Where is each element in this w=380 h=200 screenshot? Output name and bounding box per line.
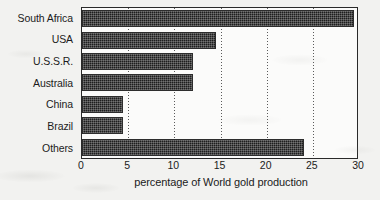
category-label-south-africa: South Africa <box>0 7 77 29</box>
x-tick-label-5: 5 <box>124 160 130 171</box>
bar-row <box>82 137 357 158</box>
category-label-others: Others <box>0 137 77 159</box>
x-axis-title-text: percentage of World gold production <box>134 176 308 188</box>
x-tick-label-20: 20 <box>260 160 272 171</box>
x-tick-label-30: 30 <box>352 160 364 171</box>
x-tick-label-10: 10 <box>167 160 179 171</box>
x-tick-label-25: 25 <box>306 160 318 171</box>
bar-row <box>82 72 357 93</box>
category-label-china: China <box>0 94 77 116</box>
x-axis-tick-labels: 051015202530 <box>81 160 358 174</box>
category-label-brazil: Brazil <box>0 116 77 138</box>
category-label-usa: USA <box>0 29 77 51</box>
bar-australia <box>82 74 193 91</box>
bar-row <box>82 29 357 50</box>
bar-ussr <box>82 53 193 70</box>
bar-series <box>82 8 357 158</box>
bar-south-africa <box>82 10 354 27</box>
bar-row <box>82 51 357 72</box>
x-tick-label-15: 15 <box>214 160 226 171</box>
bar-row <box>82 94 357 115</box>
x-tick-label-0: 0 <box>78 160 84 171</box>
plot-area <box>81 7 358 159</box>
bar-china <box>82 96 123 113</box>
bar-usa <box>82 32 216 49</box>
gold-production-bar-chart: South Africa USA U.S.S.R. Australia Chin… <box>0 0 380 200</box>
bar-row <box>82 8 357 29</box>
category-axis-labels: South Africa USA U.S.S.R. Australia Chin… <box>0 7 77 159</box>
category-label-ussr: U.S.S.R. <box>0 50 77 72</box>
bar-others <box>82 139 304 156</box>
bar-brazil <box>82 117 123 134</box>
x-axis-title: percentage of World gold production <box>0 176 380 188</box>
bar-row <box>82 115 357 136</box>
category-label-australia: Australia <box>0 72 77 94</box>
